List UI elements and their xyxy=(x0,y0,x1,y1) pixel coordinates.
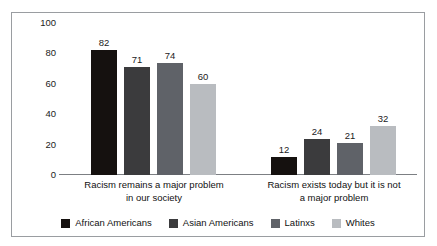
plot-area: 0 20 40 60 80 100 82 71 74 xyxy=(12,13,424,236)
bar-value-label: 32 xyxy=(363,113,403,124)
y-axis: 0 20 40 60 80 100 xyxy=(22,23,56,175)
category-label-line: Racism exists today but it is not xyxy=(249,179,419,192)
bar-asian-americans[interactable] xyxy=(304,139,330,175)
legend-item-whites[interactable]: Whites xyxy=(332,218,375,228)
bar-whites[interactable] xyxy=(370,126,396,175)
bar-value-label: 60 xyxy=(183,71,223,82)
legend-swatch-icon xyxy=(332,219,341,228)
legend-item-african-americans[interactable]: African Americans xyxy=(61,218,152,228)
bar-value-label: 12 xyxy=(264,144,304,155)
legend-label: Latinxs xyxy=(285,218,315,228)
legend-label: Whites xyxy=(346,218,375,228)
y-tick-60: 60 xyxy=(22,79,56,89)
bar-value-label: 74 xyxy=(150,50,190,61)
category-axis-labels: Racism remains a major problem in our so… xyxy=(59,179,417,213)
bar-value-label: 82 xyxy=(84,37,124,48)
chart-legend: African Americans Asian Americans Latinx… xyxy=(12,213,424,233)
bar-african-americans[interactable] xyxy=(91,50,117,175)
legend-label: African Americans xyxy=(75,218,152,228)
bar-latinxs[interactable] xyxy=(157,63,183,175)
bar-whites[interactable] xyxy=(190,84,216,175)
y-tick-100: 100 xyxy=(22,18,56,28)
category-label-line: Racism remains a major problem xyxy=(69,179,239,192)
y-tick-40: 40 xyxy=(22,109,56,119)
legend-swatch-icon xyxy=(271,219,280,228)
bar-group-racism-exists-not-major-problem: 12 24 21 32 xyxy=(259,23,409,175)
bar-latinxs[interactable] xyxy=(337,143,363,175)
legend-swatch-icon xyxy=(61,219,70,228)
bar-group-racism-remains-major-problem: 82 71 74 60 xyxy=(79,23,229,175)
category-label-racism-exists: Racism exists today but it is not a majo… xyxy=(249,179,419,204)
category-label-racism-remains: Racism remains a major problem in our so… xyxy=(69,179,239,204)
legend-item-asian-americans[interactable]: Asian Americans xyxy=(169,218,254,228)
legend-swatch-icon xyxy=(169,219,178,228)
category-label-line: a major problem xyxy=(249,192,419,205)
bar-african-americans[interactable] xyxy=(271,157,297,175)
legend-label: Asian Americans xyxy=(183,218,254,228)
legend-item-latinxs[interactable]: Latinxs xyxy=(271,218,315,228)
category-label-line: in our society xyxy=(69,192,239,205)
y-tick-0: 0 xyxy=(22,170,56,180)
bar-chart-figure: 0 20 40 60 80 100 82 71 74 xyxy=(11,12,425,237)
y-tick-20: 20 xyxy=(22,140,56,150)
bars-layer: 82 71 74 60 12 xyxy=(59,23,417,175)
bar-asian-americans[interactable] xyxy=(124,67,150,175)
y-tick-80: 80 xyxy=(22,48,56,58)
bar-value-label: 21 xyxy=(330,130,370,141)
